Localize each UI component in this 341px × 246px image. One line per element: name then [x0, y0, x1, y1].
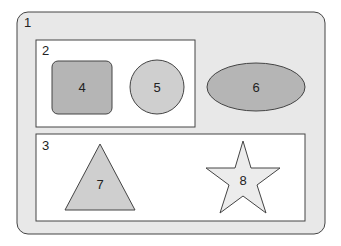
- shape-5-circle: 5: [130, 60, 184, 114]
- shape-7-label: 7: [96, 177, 103, 192]
- container-1-label: 1: [24, 15, 31, 30]
- container-3-label: 3: [42, 138, 49, 153]
- container-2-label: 2: [42, 43, 49, 58]
- diagram-canvas: 1 2 3 4 5 6 7 8: [0, 0, 341, 246]
- shape-4-label: 4: [78, 80, 85, 95]
- shape-6-label: 6: [252, 80, 259, 95]
- shape-8-label: 8: [239, 173, 246, 188]
- shape-6-ellipse: 6: [207, 63, 305, 111]
- shape-5-label: 5: [153, 80, 160, 95]
- shape-4-rounded-rectangle: 4: [52, 61, 112, 114]
